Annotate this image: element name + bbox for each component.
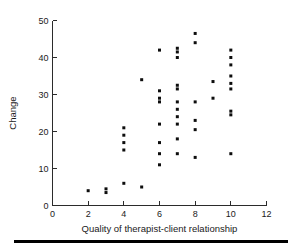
data-points-group [87, 32, 233, 194]
x-tick-label: 0 [50, 209, 55, 219]
data-point [87, 189, 90, 192]
y-tick-label: 20 [38, 127, 48, 137]
data-point [140, 78, 143, 81]
x-tick-label: 12 [261, 209, 271, 219]
data-point [105, 191, 108, 194]
data-point [158, 123, 161, 126]
data-point [158, 100, 161, 103]
data-point [212, 97, 215, 100]
axes-group [53, 21, 267, 206]
x-axis-tick-labels: 024681012 [50, 209, 272, 219]
data-point [194, 119, 197, 122]
scatter-plot-figure: 024681012 01020304050 Quality of therapi… [0, 0, 299, 251]
y-axis-tick-labels: 01020304050 [38, 16, 48, 211]
x-tick-label: 10 [226, 209, 236, 219]
data-point [158, 89, 161, 92]
data-point [158, 152, 161, 155]
data-point [122, 149, 125, 152]
data-point [105, 187, 108, 190]
data-point [194, 100, 197, 103]
data-point [176, 84, 179, 87]
data-point [176, 108, 179, 111]
data-point [194, 32, 197, 35]
footer-divider-rule [14, 240, 288, 243]
data-point [176, 100, 179, 103]
y-tick-label: 30 [38, 90, 48, 100]
data-point [158, 49, 161, 52]
data-point [140, 186, 143, 189]
data-point [229, 75, 232, 78]
data-point [158, 163, 161, 166]
y-tick-label: 10 [38, 164, 48, 174]
axis-ticks-group [53, 21, 267, 206]
x-tick-label: 8 [193, 209, 198, 219]
data-point [122, 134, 125, 137]
y-tick-label: 50 [38, 16, 48, 26]
x-tick-label: 2 [86, 209, 91, 219]
y-tick-label: 40 [38, 53, 48, 63]
data-point [229, 49, 232, 52]
data-point [122, 141, 125, 144]
data-point [176, 123, 179, 126]
data-point [194, 156, 197, 159]
y-axis-title: Change [7, 96, 18, 129]
data-point [176, 50, 179, 53]
scatter-plot-canvas: 024681012 01020304050 Quality of therapi… [0, 0, 299, 251]
x-axis-title: Quality of therapist-client relationship [82, 223, 238, 234]
data-point [176, 56, 179, 59]
y-tick-label: 0 [43, 201, 48, 211]
data-point [229, 82, 232, 85]
data-point [176, 152, 179, 155]
data-point [229, 63, 232, 66]
data-point [229, 56, 232, 59]
x-tick-label: 6 [157, 209, 162, 219]
data-point [194, 128, 197, 131]
data-point [176, 137, 179, 140]
data-point [176, 115, 179, 118]
data-point [194, 41, 197, 44]
data-point [122, 182, 125, 185]
data-point [122, 126, 125, 129]
data-point [229, 113, 232, 116]
data-point [158, 141, 161, 144]
data-point [229, 110, 232, 113]
x-tick-label: 4 [121, 209, 126, 219]
data-point [229, 87, 232, 90]
data-point [158, 97, 161, 100]
data-point [176, 47, 179, 50]
data-point [229, 152, 232, 155]
data-point [212, 80, 215, 83]
data-point [176, 87, 179, 90]
